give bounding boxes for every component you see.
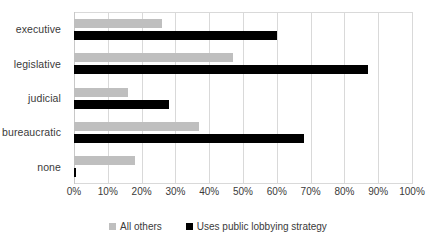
legend-item[interactable]: All others <box>109 221 162 232</box>
x-tick-label: 10% <box>98 186 118 197</box>
category-axis-labels: executive legislative judicial bureaucra… <box>0 12 68 184</box>
x-tick-label: 0% <box>67 186 81 197</box>
legend-label: All others <box>120 221 162 232</box>
bar-group <box>74 115 412 149</box>
legend-swatch-icon <box>109 223 116 230</box>
bar <box>74 134 304 143</box>
bar <box>74 65 368 74</box>
bar-chart: executive legislative judicial bureaucra… <box>0 0 436 244</box>
x-tick-label: 70% <box>301 186 321 197</box>
bar <box>74 168 76 177</box>
x-tick-label: 50% <box>233 186 253 197</box>
category-label: executive <box>0 12 68 46</box>
bar <box>74 53 233 62</box>
x-tick-label: 60% <box>267 186 287 197</box>
bar <box>74 88 128 97</box>
bar-group <box>74 12 412 46</box>
plot-area <box>74 12 412 184</box>
x-tick-label: 80% <box>334 186 354 197</box>
category-label: bureaucratic <box>0 115 68 149</box>
x-tick-label: 30% <box>165 186 185 197</box>
x-tick-label: 90% <box>368 186 388 197</box>
bar <box>74 156 135 165</box>
bar <box>74 122 199 131</box>
legend-label: Uses public lobbying strategy <box>197 221 327 232</box>
bar-group <box>74 81 412 115</box>
legend-swatch-icon <box>186 223 193 230</box>
chart-legend: All othersUses public lobbying strategy <box>0 218 436 234</box>
bar <box>74 31 277 40</box>
gridline <box>412 12 413 184</box>
bar-group <box>74 46 412 80</box>
legend-item[interactable]: Uses public lobbying strategy <box>186 221 327 232</box>
bar-group <box>74 150 412 184</box>
bar <box>74 19 162 28</box>
category-label: judicial <box>0 81 68 115</box>
x-tick-label: 40% <box>199 186 219 197</box>
category-label: legislative <box>0 46 68 80</box>
bar-rows <box>74 12 412 184</box>
x-tick-label: 20% <box>132 186 152 197</box>
category-label: none <box>0 150 68 184</box>
x-tick-label: 100% <box>399 186 425 197</box>
bar <box>74 100 169 109</box>
x-axis: 0%10%20%30%40%50%60%70%80%90%100% <box>74 186 412 202</box>
